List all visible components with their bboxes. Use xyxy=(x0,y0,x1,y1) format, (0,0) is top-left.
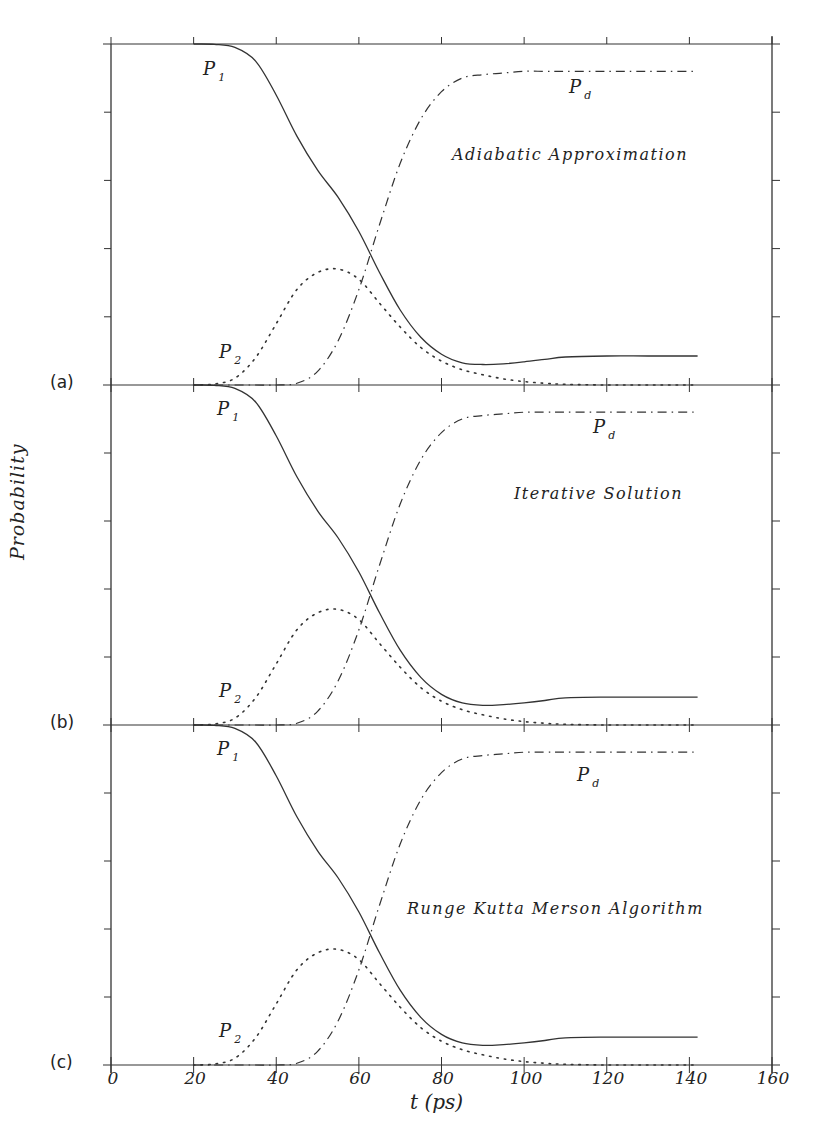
curve-pd-panel-0 xyxy=(194,71,698,385)
panel-tag-a: (a) xyxy=(50,372,74,392)
method-label-c: Runge Kutta Merson Algorithm xyxy=(407,899,704,918)
y-axis-label: Probability xyxy=(6,443,28,560)
x-tick-0: 0 xyxy=(108,1068,119,1088)
panel-tag-b: (b) xyxy=(50,712,74,732)
panel-tag-c: (c) xyxy=(50,1052,73,1072)
method-label-a: Adiabatic Approximation xyxy=(452,145,688,164)
x-tick-40: 40 xyxy=(267,1068,289,1088)
curve-p2-panel-1 xyxy=(194,609,698,725)
x-tick-140: 140 xyxy=(675,1068,707,1088)
curve-p1-panel-2 xyxy=(194,725,698,1045)
curve-label-p2-b: P2 xyxy=(219,680,241,706)
curve-label-p1-c: P1 xyxy=(217,738,239,764)
x-tick-20: 20 xyxy=(184,1068,206,1088)
x-tick-120: 120 xyxy=(592,1068,624,1088)
curve-p2-panel-2 xyxy=(194,949,698,1065)
curve-label-p2-c: P2 xyxy=(219,1020,241,1046)
x-tick-160: 160 xyxy=(757,1068,789,1088)
method-label-b: Iterative Solution xyxy=(514,484,683,503)
x-tick-60: 60 xyxy=(349,1068,371,1088)
x-axis-label: t (ps) xyxy=(410,1090,463,1114)
curve-p1-panel-0 xyxy=(194,44,698,365)
curve-label-pd-c: Pd xyxy=(577,764,599,790)
curve-pd-panel-1 xyxy=(194,412,698,725)
curve-p2-panel-0 xyxy=(194,269,698,385)
curve-label-p2-a: P2 xyxy=(219,341,241,367)
x-tick-80: 80 xyxy=(432,1068,454,1088)
x-tick-100: 100 xyxy=(510,1068,542,1088)
curve-p1-panel-1 xyxy=(194,385,698,705)
curve-label-pd-b: Pd xyxy=(593,416,615,442)
curve-label-pd-a: Pd xyxy=(569,76,591,102)
probability-figure xyxy=(0,0,821,1140)
curve-label-p1-b: P1 xyxy=(217,398,239,424)
curve-label-p1-a: P1 xyxy=(203,58,225,84)
